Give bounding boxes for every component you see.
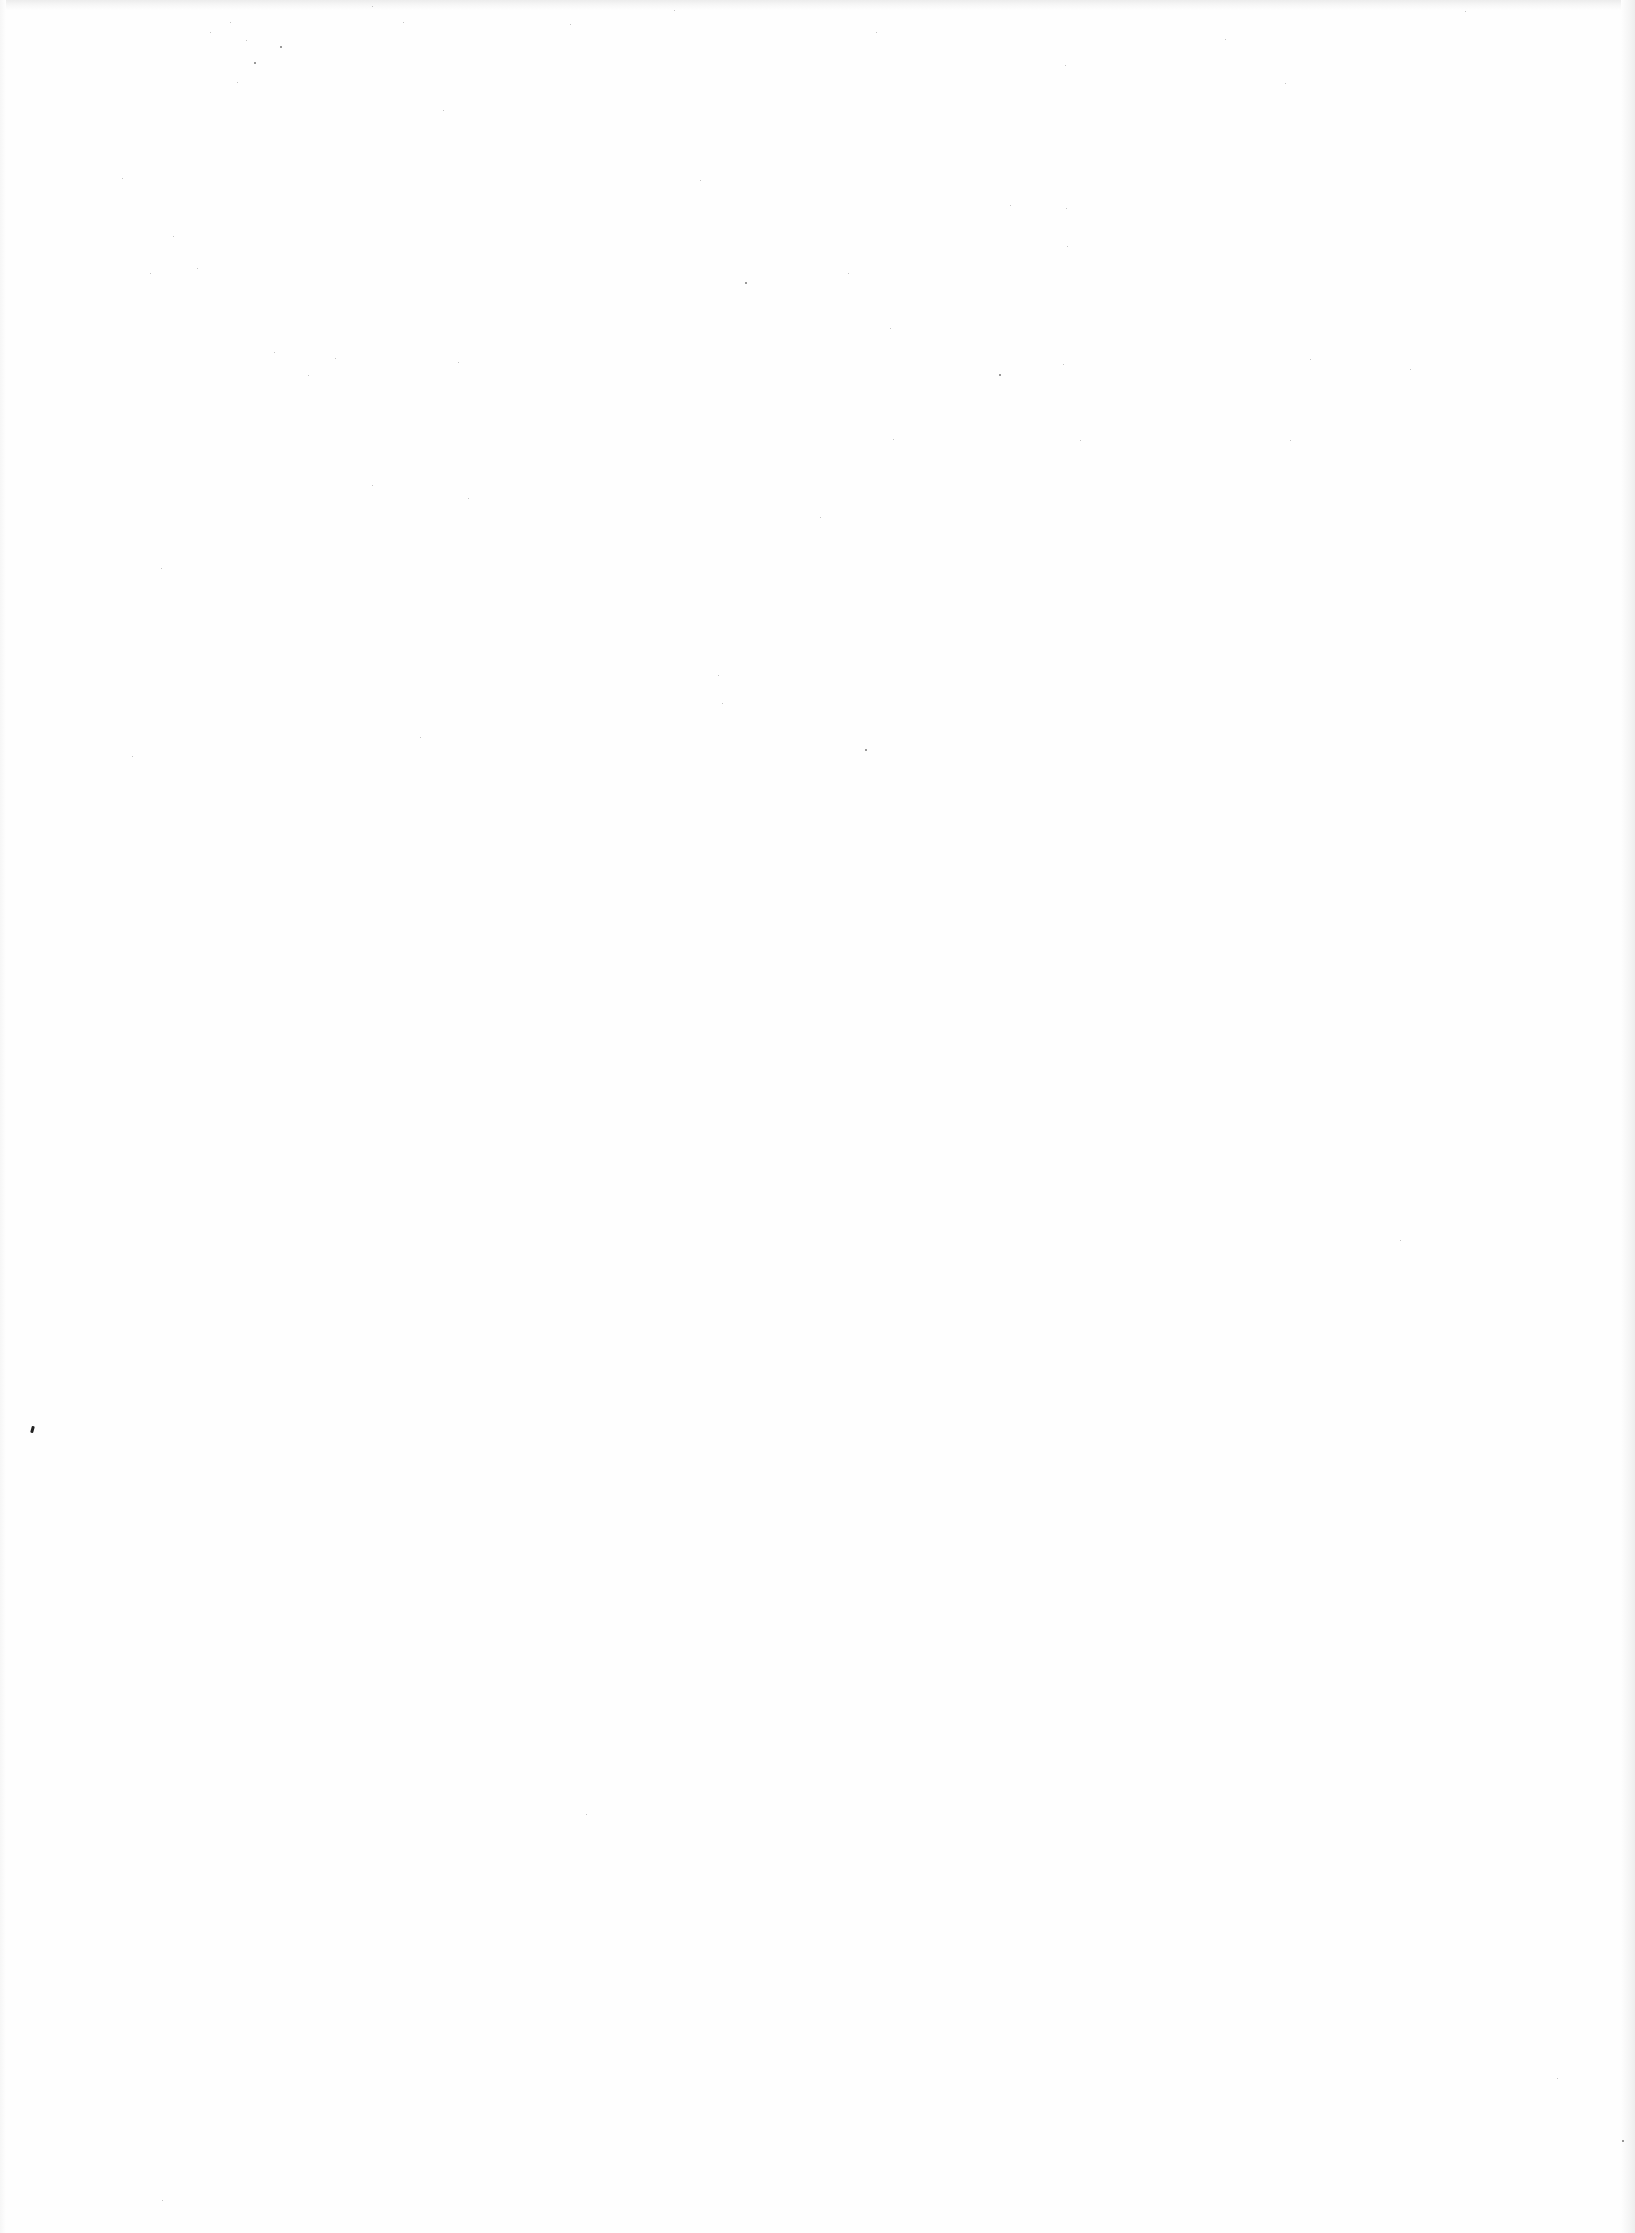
dust-speck (443, 110, 444, 111)
dust-speck (162, 2200, 163, 2201)
dust-speck (161, 568, 162, 569)
dust-speck (1080, 440, 1081, 441)
dust-speck (1285, 83, 1286, 84)
dust-speck (674, 10, 675, 11)
dust-speck (1065, 65, 1066, 66)
dust-speck (890, 328, 891, 329)
dust-speck (308, 375, 309, 376)
dust-speck (1067, 246, 1068, 247)
dust-speck (1066, 208, 1067, 209)
dust-speck (1410, 369, 1411, 370)
blank-page (0, 0, 1635, 2233)
dust-speck (700, 180, 701, 181)
dust-speck (254, 62, 256, 64)
dust-speck (586, 1814, 587, 1815)
dust-speck (1225, 39, 1226, 40)
dust-speck (893, 439, 894, 440)
dust-speck (1010, 205, 1011, 206)
dust-speck (1400, 1240, 1401, 1241)
dust-speck (280, 46, 282, 48)
dust-speck (197, 268, 198, 269)
dust-speck (848, 273, 849, 274)
dust-speck (876, 32, 877, 33)
dust-speck (570, 24, 571, 25)
ink-mark (30, 1426, 35, 1434)
dust-speck (237, 82, 238, 83)
dust-speck (173, 236, 174, 237)
dust-speck (132, 756, 133, 757)
dust-speck (1290, 440, 1291, 441)
dust-speck (122, 178, 123, 179)
dust-speck (372, 485, 373, 486)
scan-right-edge-shadow (1621, 0, 1635, 2233)
scan-left-edge-shadow (0, 0, 6, 2233)
dust-speck (150, 273, 151, 274)
dust-speck (820, 517, 821, 518)
dust-speck (999, 374, 1001, 376)
dust-speck (722, 703, 723, 704)
dust-speck (1063, 364, 1064, 365)
dust-speck (1310, 359, 1311, 360)
dust-speck (274, 352, 275, 353)
dust-speck (1622, 2140, 1624, 2142)
dust-speck (210, 32, 211, 33)
dust-speck (1557, 2078, 1558, 2079)
dust-speck (403, 22, 404, 23)
scan-top-edge-shadow (0, 0, 1635, 10)
dust-speck (420, 737, 421, 738)
dust-speck (230, 22, 231, 23)
dust-speck (865, 749, 867, 751)
dust-speck (335, 358, 336, 359)
dust-speck (718, 675, 719, 676)
dust-speck (1465, 11, 1466, 12)
dust-speck (745, 282, 747, 284)
dust-speck (246, 40, 247, 41)
dust-speck (372, 6, 373, 7)
dust-speck (468, 498, 469, 499)
dust-speck (458, 362, 459, 363)
